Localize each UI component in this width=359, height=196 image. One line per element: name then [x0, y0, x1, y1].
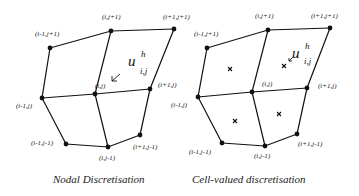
node-label: (i,j+1) — [102, 13, 121, 21]
svg-text:i,j: i,j — [140, 66, 148, 76]
cell-caption: Cell-valued discretisation — [192, 173, 306, 185]
node-label: (i+1,j-1) — [298, 140, 323, 148]
nodal-mesh — [42, 29, 174, 147]
node-label: (i,j-1) — [254, 152, 271, 160]
node-label: (i,j) — [262, 80, 273, 88]
cell-centre-marker — [282, 64, 286, 68]
node-label: (i,j-1) — [99, 154, 116, 162]
node-label: (i+1,j-1) — [133, 143, 158, 151]
node-label: (i-1,j-1) — [31, 139, 54, 147]
node-label: (i+1,j+1) — [311, 12, 338, 20]
arrow-icon — [112, 74, 120, 81]
node-label: (i-1,j) — [171, 101, 188, 109]
node-label: (i+1,j+1) — [163, 13, 190, 21]
svg-text:u: u — [128, 53, 136, 69]
node-label: (i+1,j) — [318, 82, 337, 90]
svg-text:i,j: i,j — [304, 56, 312, 66]
node-label: (i-1,j-1) — [189, 148, 212, 156]
node-label: (i-1,j+1) — [194, 30, 219, 38]
node-label: (i-1,j+1) — [35, 30, 60, 38]
discretisation-figure: (i-1,j+1) (i,j+1) (i+1,j+1) (i-1,j) (i,j… — [0, 0, 359, 196]
node-label: (i,j+1) — [255, 12, 274, 20]
svg-text:h: h — [305, 41, 310, 51]
nodal-caption: Nodal Discretisation — [52, 173, 145, 185]
node-label: (i+1,j) — [158, 81, 177, 89]
cell-variable: u h i,j — [289, 41, 312, 66]
cell-centre-marker — [228, 67, 232, 71]
cell-centre-marker — [277, 112, 281, 116]
cell-centre-marker — [233, 119, 237, 123]
svg-text:u: u — [292, 45, 300, 61]
node-label: (i,j) — [95, 82, 106, 90]
node-label: (i-1,j) — [16, 102, 33, 110]
nodal-labels: (i-1,j+1) (i,j+1) (i+1,j+1) (i-1,j) (i,j… — [16, 13, 190, 162]
svg-text:h: h — [141, 49, 146, 59]
nodal-variable: u h i,j — [112, 49, 148, 81]
